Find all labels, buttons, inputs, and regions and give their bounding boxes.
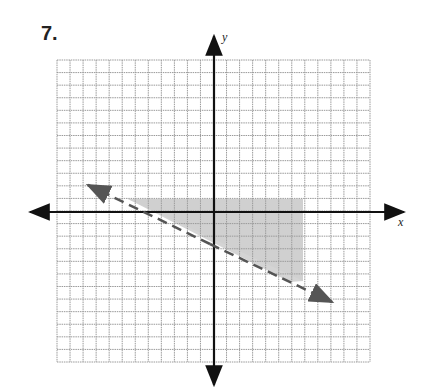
y-axis-label: y (221, 30, 228, 44)
coordinate-graph: y x (0, 0, 433, 392)
x-axis-label: x (397, 215, 404, 229)
